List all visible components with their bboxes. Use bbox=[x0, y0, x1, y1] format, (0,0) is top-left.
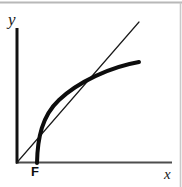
graph-canvas bbox=[0, 0, 182, 187]
graph-figure: y x F bbox=[0, 0, 182, 187]
y-axis-label: y bbox=[8, 11, 16, 28]
tangent-line bbox=[17, 22, 140, 163]
point-f-label: F bbox=[31, 165, 39, 178]
curve-path bbox=[37, 62, 139, 163]
x-axis-label: x bbox=[164, 167, 171, 182]
